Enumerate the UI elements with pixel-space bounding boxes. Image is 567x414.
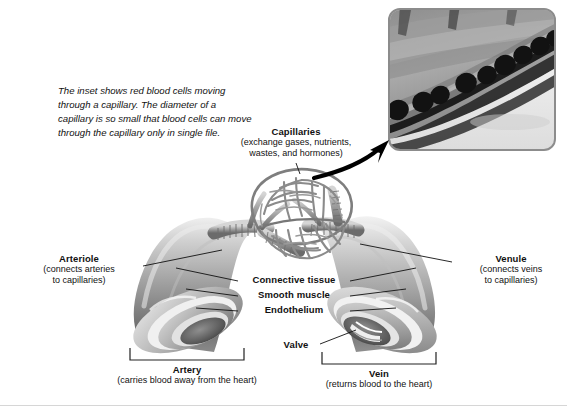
label-vein: Vein (returns blood to the heart) <box>288 368 470 390</box>
label-vein-title: Vein <box>288 368 470 379</box>
label-artery-subtitle: (carries blood away from the heart) <box>96 375 278 386</box>
label-arteriole-subtitle: (connects arteries to capillaries) <box>16 264 142 285</box>
label-smooth-muscle: Smooth muscle <box>240 289 348 300</box>
label-vein-subtitle: (returns blood to the heart) <box>288 379 470 390</box>
label-venule-title: Venule <box>456 253 566 264</box>
page-bottom-rule <box>0 405 567 406</box>
label-valve: Valve <box>274 339 318 350</box>
label-capillaries-subtitle: (exchange gases, nutrients, wastes, and … <box>224 137 368 158</box>
label-venule-subtitle: (connects veins to capillaries) <box>456 264 566 285</box>
blood-vessel-illustration <box>0 0 567 414</box>
label-capillaries: Capillaries (exchange gases, nutrients, … <box>224 126 368 158</box>
label-smooth-muscle-title: Smooth muscle <box>240 289 348 300</box>
label-arteriole-title: Arteriole <box>16 253 142 264</box>
leader-valve <box>320 330 356 344</box>
label-arteriole: Arteriole (connects arteries to capillar… <box>16 253 142 285</box>
label-endothelium: Endothelium <box>240 304 348 315</box>
label-connective-tissue: Connective tissue <box>240 274 348 285</box>
label-valve-title: Valve <box>274 339 318 350</box>
label-capillaries-title: Capillaries <box>224 126 368 137</box>
label-venule: Venule (connects veins to capillaries) <box>456 253 566 285</box>
label-artery-title: Artery <box>96 364 278 375</box>
label-artery: Artery (carries blood away from the hear… <box>96 364 278 386</box>
figure-canvas: The inset shows red blood cells moving t… <box>0 0 567 414</box>
label-endothelium-title: Endothelium <box>240 304 348 315</box>
label-connective-tissue-title: Connective tissue <box>240 274 348 285</box>
bracket-vein <box>322 352 436 364</box>
